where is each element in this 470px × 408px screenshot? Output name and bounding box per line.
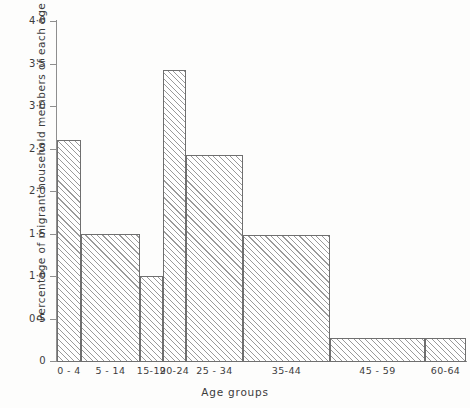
y-tick-mark: [50, 319, 57, 320]
bar: [186, 155, 243, 362]
y-tick-label: 2·0: [20, 185, 46, 196]
bar: [81, 234, 140, 363]
y-tick-label: 3·5: [20, 58, 46, 69]
x-axis-line: [56, 361, 467, 362]
y-tick-mark: [50, 64, 57, 65]
bar-series: [0, 0, 470, 408]
bar: [163, 70, 186, 362]
bar: [243, 235, 330, 362]
bar: [330, 338, 425, 362]
x-tick-label: 35-44: [247, 365, 327, 376]
y-tick-mark: [50, 106, 57, 107]
bar: [57, 140, 81, 362]
y-tick-label: 1·5: [20, 228, 46, 239]
y-tick-mark: [50, 234, 57, 235]
x-axis-label: Age groups: [0, 386, 470, 398]
bar: [425, 338, 466, 362]
y-tick-label: 3·0: [20, 100, 46, 111]
y-tick-mark: [50, 276, 57, 277]
bar: [140, 276, 163, 362]
y-tick-mark: [50, 361, 57, 362]
y-tick-label: 2·5: [20, 143, 46, 154]
y-tick-label: 4·0: [20, 15, 46, 26]
histogram-figure: Percentage of migrant household members …: [0, 0, 470, 408]
x-tick-label: 60-64: [406, 365, 470, 376]
y-tick-mark: [50, 149, 57, 150]
y-tick-mark: [50, 191, 57, 192]
y-tick-label: 0·5: [20, 313, 46, 324]
y-tick-label: 1·0: [20, 270, 46, 281]
x-tick-label: 25 - 34: [175, 365, 255, 376]
y-tick-mark: [50, 21, 57, 22]
